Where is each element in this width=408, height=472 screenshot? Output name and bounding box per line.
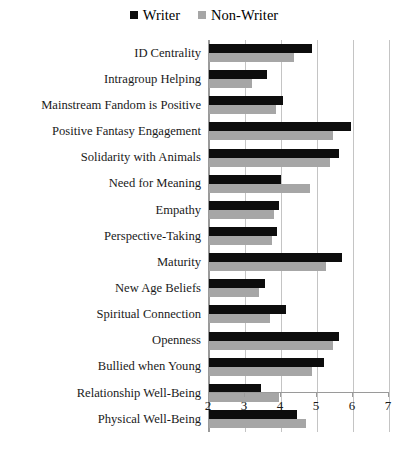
y-axis-label: Openness (0, 328, 206, 354)
bar-writer (209, 332, 339, 341)
bar-non-writer (209, 79, 252, 88)
legend-swatch-non-writer (198, 11, 206, 19)
bar-non-writer (209, 210, 274, 219)
bar-group (209, 301, 389, 327)
bar-non-writer (209, 53, 294, 62)
bar-group (209, 354, 389, 380)
y-axis-label: Relationship Well-Being (0, 380, 206, 406)
chart-legend: Writer Non-Writer (0, 8, 408, 23)
y-axis-label: Positive Fantasy Engagement (0, 118, 206, 144)
y-axis-label: Spiritual Connection (0, 301, 206, 327)
gridline (389, 40, 390, 432)
x-axis-tick (280, 392, 281, 397)
bar-chart: Writer Non-Writer ID Centrality Intragro… (0, 0, 408, 472)
bar-non-writer (209, 184, 310, 193)
y-axis-label: Perspective-Taking (0, 223, 206, 249)
x-axis-line (208, 392, 388, 393)
x-axis-tick (316, 392, 317, 397)
x-axis-tick (208, 392, 209, 397)
bar-writer (209, 201, 279, 210)
y-axis-label: Mainstream Fandom is Positive (0, 92, 206, 118)
y-axis-label: Solidarity with Animals (0, 145, 206, 171)
bars-canvas (208, 40, 389, 432)
x-axis-tick-label: 7 (385, 399, 392, 412)
plot-area: ID Centrality Intragroup Helping Mainstr… (0, 40, 408, 438)
bar-group (209, 275, 389, 301)
x-axis-tick-label: 3 (241, 399, 248, 412)
y-axis-label: Physical Well-Being (0, 406, 206, 432)
legend-label-non-writer: Non-Writer (211, 8, 278, 23)
bar-writer (209, 305, 286, 314)
bar-non-writer (209, 341, 333, 350)
bar-non-writer (209, 236, 272, 245)
bar-non-writer (209, 131, 333, 140)
legend-swatch-writer (130, 11, 138, 19)
bar-group (209, 171, 389, 197)
bar-writer (209, 175, 281, 184)
bar-non-writer (209, 262, 326, 271)
bar-writer (209, 279, 265, 288)
bar-group (209, 145, 389, 171)
y-axis-label: New Age Beliefs (0, 275, 206, 301)
x-axis-tick (388, 392, 389, 397)
bar-writer (209, 227, 277, 236)
x-axis-tick-label: 5 (313, 399, 320, 412)
bar-non-writer (209, 288, 259, 297)
x-axis-tick-label: 2 (205, 399, 212, 412)
bar-group (209, 40, 389, 66)
legend-label-writer: Writer (143, 8, 180, 23)
x-axis: 234567 (208, 392, 388, 432)
bar-group (209, 223, 389, 249)
bar-writer (209, 44, 312, 53)
bar-writer (209, 358, 324, 367)
y-axis-label: Empathy (0, 197, 206, 223)
y-axis-category-labels: ID Centrality Intragroup Helping Mainstr… (0, 40, 206, 432)
bar-group (209, 92, 389, 118)
bar-non-writer (209, 367, 312, 376)
bar-writer (209, 70, 267, 79)
bar-non-writer (209, 158, 330, 167)
bar-writer (209, 122, 351, 131)
legend-item-writer: Writer (130, 8, 180, 23)
bar-non-writer (209, 105, 276, 114)
bar-group (209, 249, 389, 275)
bar-group (209, 328, 389, 354)
bar-writer (209, 149, 339, 158)
bar-writer (209, 96, 283, 105)
y-axis-label: Intragroup Helping (0, 66, 206, 92)
x-axis-tick (352, 392, 353, 397)
y-axis-label: ID Centrality (0, 40, 206, 66)
y-axis-label: Maturity (0, 249, 206, 275)
bar-group (209, 66, 389, 92)
x-axis-tick-label: 4 (277, 399, 284, 412)
bar-writer (209, 253, 342, 262)
bar-groups (209, 40, 389, 432)
bar-group (209, 197, 389, 223)
y-axis-label: Need for Meaning (0, 171, 206, 197)
bar-non-writer (209, 314, 270, 323)
y-axis-label: Bullied when Young (0, 354, 206, 380)
bar-group (209, 118, 389, 144)
x-axis-tick-label: 6 (349, 399, 356, 412)
x-axis-tick (244, 392, 245, 397)
legend-item-non-writer: Non-Writer (198, 8, 278, 23)
